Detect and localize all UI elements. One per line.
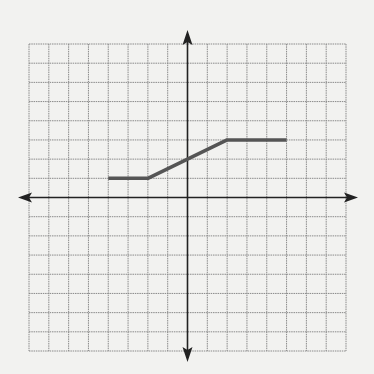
coordinate-plane (0, 0, 374, 374)
